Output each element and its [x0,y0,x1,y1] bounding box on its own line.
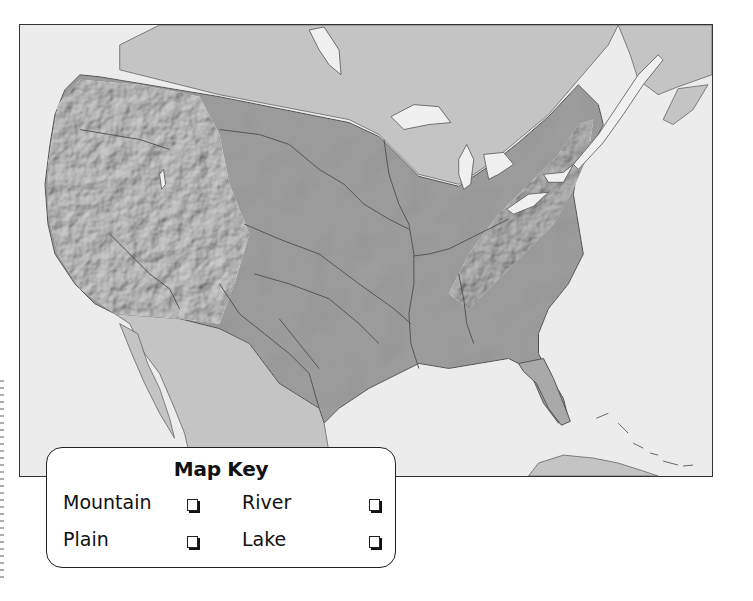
map-key: Map Key Mountain River Plain Lake [46,447,396,568]
key-label-mountain: Mountain [63,491,152,513]
physical-map [19,24,713,477]
map-graphic [20,25,712,476]
page-binding-marks [0,380,4,580]
mountain-checkbox[interactable] [187,499,198,511]
map-key-title: Map Key [47,457,395,481]
lake-checkbox[interactable] [369,536,380,548]
key-label-lake: Lake [242,528,286,550]
river-checkbox[interactable] [369,499,380,511]
key-label-river: River [242,491,291,513]
plain-checkbox[interactable] [187,536,198,548]
key-label-plain: Plain [63,528,109,550]
